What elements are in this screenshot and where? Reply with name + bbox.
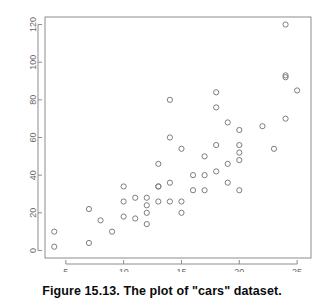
caption-text: Figure 15.13. The plot of "cars" dataset… bbox=[42, 284, 282, 298]
plot-background bbox=[0, 0, 324, 272]
y-tick-label: 60 bbox=[28, 132, 38, 142]
x-tick-label: 20 bbox=[234, 267, 244, 272]
scatter-plot: 020406080100120 510152025 bbox=[0, 0, 324, 272]
x-tick-label: 10 bbox=[119, 267, 129, 272]
plot-svg: 020406080100120 510152025 bbox=[0, 0, 324, 272]
x-tick-label: 15 bbox=[176, 267, 186, 272]
figure-container: 020406080100120 510152025 Figure 15.13. … bbox=[0, 0, 324, 306]
y-tick-label: 120 bbox=[28, 17, 38, 32]
x-tick-label: 5 bbox=[63, 267, 68, 272]
y-tick-label: 80 bbox=[28, 95, 38, 105]
x-tick-label: 25 bbox=[292, 267, 302, 272]
y-tick-label: 40 bbox=[28, 170, 38, 180]
y-tick-label: 20 bbox=[28, 208, 38, 218]
figure-caption: Figure 15.13. The plot of "cars" dataset… bbox=[0, 276, 324, 306]
y-tick-label: 0 bbox=[28, 248, 38, 253]
y-tick-label: 100 bbox=[28, 55, 38, 70]
